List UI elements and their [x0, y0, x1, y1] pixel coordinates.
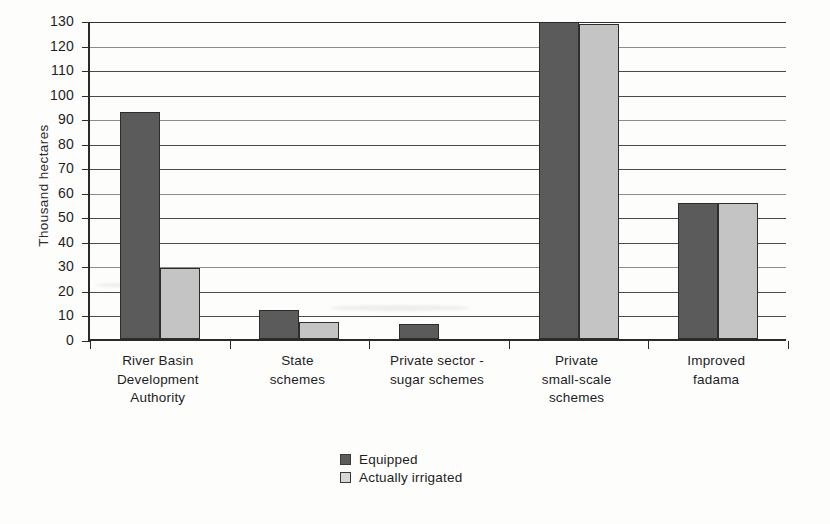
bar-group — [648, 22, 788, 339]
legend-item-actually-irrigated: Actually irrigated — [340, 470, 490, 485]
y-axis-tick — [82, 218, 90, 219]
y-axis-tick-label: 90 — [36, 111, 74, 127]
y-axis-tick-label: 30 — [36, 258, 74, 274]
y-axis-tick-label: 100 — [36, 87, 74, 103]
chart-page: Thousand hectares 1301201101009080706050… — [0, 0, 830, 524]
y-axis-tick — [82, 169, 90, 170]
y-axis-tick-label: 60 — [36, 185, 74, 201]
x-axis-labels: River BasinDevelopmentAuthorityStatesche… — [88, 352, 786, 428]
y-axis-tick — [82, 194, 90, 195]
y-axis-tick-label: 0 — [36, 332, 74, 348]
legend-swatch-icon — [340, 454, 351, 465]
x-axis-category-label: Private sector -sugar schemes — [367, 352, 507, 389]
x-axis-tick — [648, 341, 649, 349]
legend-label: Equipped — [359, 452, 418, 467]
bar-equipped — [399, 324, 439, 339]
y-axis-tick-label: 130 — [36, 13, 74, 29]
x-axis-label-line: schemes — [228, 371, 368, 390]
y-axis-tick-label: 50 — [36, 209, 74, 225]
bar-equipped — [678, 203, 718, 339]
bar-group — [230, 22, 370, 339]
y-axis-tick — [82, 22, 90, 23]
y-axis-tick — [82, 71, 90, 72]
y-axis-tick-label: 20 — [36, 283, 74, 299]
bar-group — [509, 22, 649, 339]
x-axis-label-line: River Basin — [88, 352, 228, 371]
y-axis-tick-label: 120 — [36, 38, 74, 54]
x-axis-label-line: Improved — [646, 352, 786, 371]
bar-equipped — [539, 22, 579, 339]
x-axis-label-line: Development — [88, 371, 228, 390]
y-axis-tick-label: 110 — [36, 62, 74, 78]
x-axis-label-line: Private sector - — [367, 352, 507, 371]
bar-chart: Thousand hectares 1301201101009080706050… — [0, 0, 830, 524]
y-axis-tick — [82, 316, 90, 317]
y-axis-tick — [82, 96, 90, 97]
x-axis-label-line: State — [228, 352, 368, 371]
x-axis-tick — [90, 341, 91, 349]
y-axis-tick-label: 80 — [36, 136, 74, 152]
bar-actually-irrigated — [718, 203, 758, 339]
y-axis-tick-label: 10 — [36, 307, 74, 323]
chart-legend: Equipped Actually irrigated — [0, 452, 830, 485]
y-axis-tick — [82, 243, 90, 244]
bar-group — [90, 22, 230, 339]
y-axis-tick — [82, 47, 90, 48]
y-axis-tick — [82, 341, 90, 342]
x-axis-tick — [509, 341, 510, 349]
bar-actually-irrigated — [299, 322, 339, 339]
x-axis-label-line: sugar schemes — [367, 371, 507, 390]
plot-area — [88, 22, 786, 341]
x-axis-label-line: Private — [507, 352, 647, 371]
y-axis-tick-label: 40 — [36, 234, 74, 250]
x-axis-label-line: Authority — [88, 389, 228, 408]
legend-label: Actually irrigated — [359, 470, 462, 485]
x-axis-category-label: Privatesmall-scaleschemes — [507, 352, 647, 408]
y-axis-tick-label: 70 — [36, 160, 74, 176]
x-axis-label-line: small-scale — [507, 371, 647, 390]
x-axis-category-label: River BasinDevelopmentAuthority — [88, 352, 228, 408]
x-axis-label-line: schemes — [507, 389, 647, 408]
x-axis-tick — [369, 341, 370, 349]
bar-equipped — [120, 112, 160, 339]
legend-item-equipped: Equipped — [340, 452, 490, 467]
bar-actually-irrigated — [579, 24, 619, 339]
x-axis-category-label: Improvedfadama — [646, 352, 786, 389]
bar-series-container — [90, 22, 786, 339]
x-axis-label-line: fadama — [646, 371, 786, 390]
bar-actually-irrigated — [160, 268, 200, 339]
y-axis-tick — [82, 292, 90, 293]
legend-swatch-icon — [340, 472, 351, 483]
y-axis-tick — [82, 267, 90, 268]
x-axis-tick — [788, 341, 789, 349]
y-axis-tick — [82, 145, 90, 146]
x-axis-category-label: Stateschemes — [228, 352, 368, 389]
x-axis-tick — [230, 341, 231, 349]
bar-group — [369, 22, 509, 339]
y-axis-tick — [82, 120, 90, 121]
bar-equipped — [259, 310, 299, 339]
